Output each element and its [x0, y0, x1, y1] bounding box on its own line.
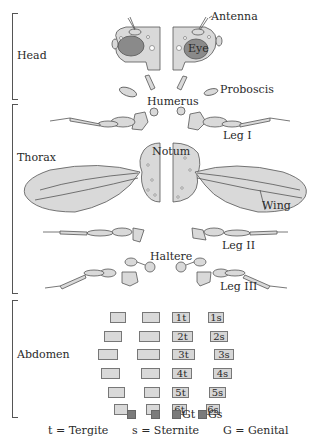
- leg-1-left: [50, 108, 158, 130]
- legend-tergite: t = Tergite: [48, 424, 108, 437]
- abdomen-plate: [144, 387, 160, 398]
- abdomen-plate: [114, 404, 128, 415]
- legend-sternite: s = Sternite: [132, 424, 199, 437]
- leg-1-right: [177, 107, 290, 130]
- sternite-3: 3s: [214, 349, 234, 360]
- tergite-1: 1t: [172, 312, 190, 323]
- tergite-4: 4t: [172, 368, 192, 379]
- humerus-right: [177, 76, 187, 90]
- label-antenna: Antenna: [211, 11, 258, 23]
- label-leg-1: Leg I: [223, 130, 252, 142]
- genital-tergite-label: Gt: [182, 409, 195, 421]
- proboscis-left: [118, 85, 138, 99]
- sternite-5: 5s: [209, 387, 226, 398]
- sternite-4: 4s: [213, 368, 232, 379]
- label-notum: Notum: [152, 146, 190, 158]
- label-eye: Eye: [188, 43, 209, 55]
- abdomen-plate: [137, 349, 160, 360]
- abdomen-plate: [101, 368, 120, 379]
- label-wing: Wing: [262, 200, 291, 212]
- head-left-half: [112, 17, 160, 70]
- abdomen-plate: [110, 312, 126, 323]
- tergite-2: 2t: [172, 331, 193, 342]
- tergite-5: 5t: [172, 387, 189, 398]
- proboscis-right: [203, 87, 218, 96]
- leg-3-left: [45, 269, 138, 289]
- label-haltere: Haltere: [150, 251, 192, 263]
- leg-2-left: [43, 228, 144, 242]
- genital-plate-outer: [127, 410, 136, 419]
- abdomen-plate: [108, 387, 125, 398]
- abdomen-plate: [139, 331, 160, 342]
- label-proboscis: Proboscis: [220, 84, 274, 96]
- sternite-2: 2s: [210, 331, 228, 342]
- genital-tergite-swatch: [172, 410, 181, 419]
- abdomen-plate: [104, 331, 122, 342]
- fly-anatomy-drawing: [0, 0, 324, 448]
- label-humerus: Humerus: [147, 96, 199, 108]
- label-leg-2: Leg II: [222, 240, 255, 252]
- sternite-1: 1s: [208, 312, 224, 323]
- humerus-left: [145, 75, 155, 90]
- wing-left: [24, 165, 140, 212]
- tergite-3: 3t: [172, 349, 195, 360]
- abdomen-plate: [98, 349, 118, 360]
- genital-sternite-swatch: [198, 410, 207, 419]
- abdomen-plate: [142, 312, 160, 323]
- label-leg-3: Leg III: [220, 281, 257, 293]
- abdomen-plate: [141, 368, 160, 379]
- genital-plate-inner: [151, 410, 160, 419]
- genital-sternite-label: Gs: [208, 409, 222, 421]
- legend-genital: G = Genital: [223, 424, 288, 437]
